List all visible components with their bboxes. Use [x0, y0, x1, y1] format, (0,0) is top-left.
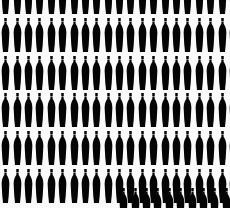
bottle-silhouette-icon — [81, 0, 90, 14]
silhouette-figure — [205, 131, 216, 165]
bottle-silhouette-icon — [24, 169, 33, 203]
silhouette-figure — [91, 131, 102, 165]
silhouette-figure — [114, 131, 125, 165]
bottle-silhouette-icon — [1, 0, 10, 14]
bottle-silhouette-icon — [70, 0, 79, 14]
silhouette-figure — [46, 169, 57, 203]
bottle-silhouette-icon — [126, 0, 135, 14]
silhouette-figure — [114, 56, 125, 90]
silhouette-figure — [171, 131, 182, 165]
bottle-silhouette-icon — [115, 18, 124, 52]
bottle-silhouette-icon — [172, 93, 181, 127]
bottle-silhouette-icon — [183, 18, 192, 52]
bottle-silhouette-icon — [206, 131, 215, 165]
silhouette-figure — [23, 169, 34, 203]
bottle-silhouette-icon — [1, 169, 10, 203]
silhouette-figure — [68, 93, 79, 127]
silhouette-figure — [182, 131, 193, 165]
bottle-silhouette-icon — [104, 18, 113, 52]
silhouette-figure — [137, 18, 148, 52]
silhouette-figure — [80, 93, 91, 127]
silhouette-figure — [68, 18, 79, 52]
silhouette-figure — [194, 18, 205, 52]
silhouette-row — [0, 0, 230, 14]
silhouette-figure — [34, 169, 45, 203]
bottle-silhouette-icon — [115, 93, 124, 127]
silhouette-figure — [159, 56, 170, 90]
bottle-silhouette-icon — [206, 56, 215, 90]
bottle-silhouette-icon — [13, 18, 22, 52]
silhouette-figure — [182, 56, 193, 90]
bottle-silhouette-icon — [229, 56, 230, 90]
bottle-silhouette-icon — [81, 93, 90, 127]
silhouette-figure — [152, 188, 163, 208]
silhouette-figure — [216, 56, 227, 90]
bottle-silhouette-icon — [92, 131, 101, 165]
silhouette-figure — [194, 56, 205, 90]
silhouette-figure — [205, 18, 216, 52]
silhouette-figure — [114, 18, 125, 52]
bottle-silhouette-icon — [149, 131, 158, 165]
bottle-silhouette-icon — [126, 93, 135, 127]
silhouette-figure — [228, 131, 230, 165]
silhouette-figure — [0, 93, 11, 127]
silhouette-figure — [68, 56, 79, 90]
silhouette-figure — [23, 56, 34, 90]
bottle-silhouette-icon — [92, 93, 101, 127]
bottle-silhouette-icon — [1, 18, 10, 52]
silhouette-figure — [68, 169, 79, 203]
bottle-silhouette-icon — [58, 56, 67, 90]
silhouette-figure — [171, 93, 182, 127]
silhouette-figure — [91, 169, 102, 203]
bottle-silhouette-icon — [126, 56, 135, 90]
bottle-silhouette-icon — [176, 188, 185, 208]
silhouette-figure — [125, 18, 136, 52]
bottle-silhouette-icon — [149, 18, 158, 52]
bottle-silhouette-icon — [218, 18, 227, 52]
bottle-silhouette-icon — [195, 93, 204, 127]
bottle-silhouette-icon — [92, 56, 101, 90]
bottle-silhouette-icon — [161, 131, 170, 165]
silhouette-figure — [194, 0, 205, 14]
silhouette-figure — [194, 93, 205, 127]
silhouette-figure — [34, 56, 45, 90]
silhouette-figure — [57, 56, 68, 90]
bottle-silhouette-icon — [13, 56, 22, 90]
silhouette-figure — [103, 18, 114, 52]
silhouette-figure — [103, 93, 114, 127]
bottle-silhouette-icon — [131, 188, 140, 208]
silhouette-figure — [91, 18, 102, 52]
bottle-silhouette-icon — [81, 169, 90, 203]
bottle-silhouette-icon — [1, 56, 10, 90]
silhouette-figure — [171, 18, 182, 52]
silhouette-figure — [148, 131, 159, 165]
silhouette-figure — [216, 93, 227, 127]
bottle-silhouette-icon — [47, 169, 56, 203]
silhouette-figure — [182, 0, 193, 14]
bottle-silhouette-icon — [183, 131, 192, 165]
silhouette-figure — [216, 18, 227, 52]
silhouette-figure — [11, 131, 22, 165]
silhouette-row — [0, 93, 230, 127]
silhouette-figure — [159, 93, 170, 127]
silhouette-figure — [57, 0, 68, 14]
bottle-silhouette-icon — [47, 56, 56, 90]
bottle-silhouette-icon — [195, 56, 204, 90]
silhouette-figure — [103, 56, 114, 90]
bottle-silhouette-icon — [35, 131, 44, 165]
silhouette-figure — [23, 18, 34, 52]
silhouette-figure — [159, 131, 170, 165]
silhouette-figure — [125, 0, 136, 14]
bottle-silhouette-icon — [149, 93, 158, 127]
bottle-silhouette-icon — [81, 18, 90, 52]
silhouette-figure — [141, 188, 152, 208]
silhouette-figure — [182, 93, 193, 127]
silhouette-figure — [0, 0, 11, 14]
bottle-silhouette-icon — [35, 93, 44, 127]
bottle-silhouette-icon — [58, 169, 67, 203]
bottle-silhouette-icon — [161, 0, 170, 14]
silhouette-figure — [194, 131, 205, 165]
silhouette-figure — [34, 93, 45, 127]
bottle-silhouette-icon — [161, 93, 170, 127]
bottle-silhouette-icon — [195, 18, 204, 52]
